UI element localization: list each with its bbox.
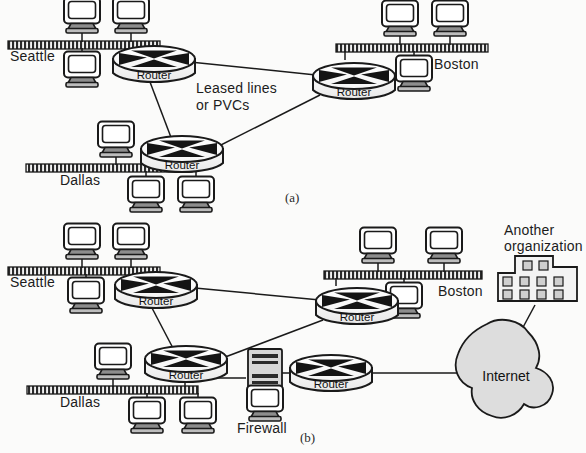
leased-lines-note-line1: Leased lines — [196, 80, 277, 96]
site-label-dallas-a: Dallas — [60, 172, 100, 188]
link-seattle-dallas-b — [152, 308, 175, 352]
router-label: Router — [165, 159, 200, 171]
link-seattle-boston — [190, 62, 316, 75]
router-edge-b: Router — [290, 355, 372, 391]
workstation — [64, 52, 100, 88]
site-label-seattle-b: Seattle — [10, 274, 55, 290]
workstation — [426, 228, 462, 264]
firewall-console — [247, 386, 283, 422]
router-label: Router — [337, 86, 372, 98]
link-seattle-boston-b — [195, 288, 320, 300]
diagram-canvas: Router Router Router — [0, 0, 586, 453]
firewall-icon — [247, 349, 283, 421]
workstation — [382, 1, 418, 37]
router-seattle-a: Router — [113, 46, 195, 82]
internet-label: Internet — [482, 368, 530, 384]
caption-b: (b) — [300, 430, 315, 446]
another-org-label-line2: organization — [504, 238, 583, 254]
router-label: Router — [139, 295, 174, 307]
office-building-icon — [498, 256, 577, 301]
workstation — [113, 0, 149, 33]
router-seattle-b: Router — [115, 272, 197, 308]
caption-a: (a) — [285, 190, 299, 206]
workstation — [68, 278, 104, 314]
router-boston-a: Router — [313, 63, 395, 99]
workstation — [128, 177, 164, 213]
router-dallas-a: Router — [141, 136, 223, 172]
workstation — [360, 228, 396, 264]
router-label: Router — [169, 369, 204, 381]
another-org-label-line1: Another — [504, 222, 554, 238]
site-label-seattle-a: Seattle — [10, 48, 55, 64]
router-label: Router — [137, 69, 172, 81]
workstation — [178, 177, 214, 213]
workstation — [180, 398, 216, 434]
site-label-dallas-b: Dallas — [60, 394, 100, 410]
network-topology-figure: Router Router Router — [0, 0, 586, 453]
router-boston-b: Router — [316, 288, 398, 324]
internet-cloud: Internet — [456, 320, 553, 418]
workstation — [129, 398, 165, 434]
spacer — [4, 2, 40, 38]
workstation — [64, 0, 100, 33]
firewall-label: Firewall — [237, 420, 287, 436]
workstation — [432, 1, 468, 37]
router-label: Router — [340, 311, 375, 323]
workstation — [95, 344, 131, 380]
workstation — [64, 224, 100, 260]
workstation — [98, 122, 134, 158]
router-label: Router — [314, 378, 349, 390]
link-seattle-dallas — [150, 82, 172, 140]
leased-lines-note-line2: or PVCs — [196, 97, 250, 113]
site-label-boston-a: Boston — [434, 56, 479, 72]
workstation — [396, 56, 432, 92]
site-label-boston-b: Boston — [438, 283, 483, 299]
workstation — [113, 224, 149, 260]
router-dallas-b: Router — [145, 346, 227, 382]
